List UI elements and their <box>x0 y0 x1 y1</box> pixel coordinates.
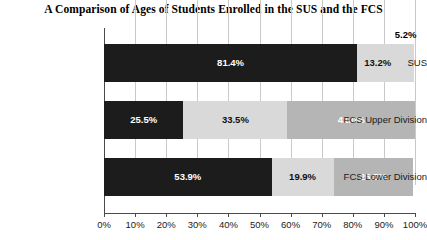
tick-mark <box>384 213 385 217</box>
chart-container: A Comparison of Ages of Students Enrolle… <box>0 0 427 240</box>
bar-segment-value-label: 25.5% <box>130 115 157 125</box>
bar-segment[interactable]: 81.4% <box>104 44 357 82</box>
chart-title: A Comparison of Ages of Students Enrolle… <box>0 3 427 15</box>
bar-segment[interactable]: 25.5% <box>104 101 183 139</box>
bar-segment[interactable]: 19.9% <box>272 158 334 196</box>
bar-segment-value-label: 81.4% <box>217 58 244 68</box>
tick-mark <box>353 213 354 217</box>
bar-segment[interactable]: 53.9% <box>104 158 272 196</box>
tick-mark <box>197 213 198 217</box>
tick-mark <box>104 213 105 217</box>
x-tick-label: 20% <box>157 219 176 230</box>
x-tick-label: 90% <box>374 219 393 230</box>
bar-segment-value-label: 19.9% <box>289 172 316 182</box>
bar-segment[interactable]: 33.5% <box>183 101 287 139</box>
x-tick-label: 40% <box>219 219 238 230</box>
x-tick-label: 70% <box>312 219 331 230</box>
x-tick-label: 10% <box>126 219 145 230</box>
tick-mark <box>291 213 292 217</box>
x-tick-label: 100% <box>403 219 427 230</box>
x-tick-label: 50% <box>250 219 269 230</box>
tick-mark <box>260 213 261 217</box>
x-tick-label: 0% <box>97 219 111 230</box>
category-label: FCS Lower Division <box>327 171 427 182</box>
category-label: FCS Upper Division <box>327 114 427 125</box>
x-tick-label: 80% <box>343 219 362 230</box>
x-tick-label: 30% <box>188 219 207 230</box>
tick-mark <box>135 213 136 217</box>
category-label: SUS <box>327 57 427 68</box>
tick-mark <box>166 213 167 217</box>
bar-segment-value-label: 53.9% <box>174 172 201 182</box>
tick-mark <box>415 213 416 217</box>
tick-mark <box>322 213 323 217</box>
gridline <box>415 0 416 185</box>
tick-mark <box>228 213 229 217</box>
bar-segment-value-label: 33.5% <box>222 115 249 125</box>
bar-segment-value-label: 5.2% <box>395 30 417 40</box>
x-tick-label: 60% <box>281 219 300 230</box>
